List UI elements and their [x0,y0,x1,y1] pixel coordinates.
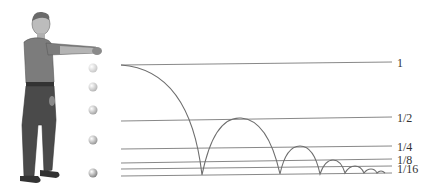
ball-4 [89,136,98,145]
label-half: 1/2 [397,112,412,124]
line-quarter [121,146,392,149]
diagram-canvas [0,0,435,193]
falling-balls [89,64,98,178]
ground-line [121,173,392,176]
line-1 [121,62,392,65]
ball-5 [89,169,98,178]
ball-1 [89,64,98,73]
ball-2 [89,83,98,92]
line-eighth [121,159,392,163]
label-quarter: 1/4 [397,141,412,153]
bouncing-ball-diagram: 1 1/2 1/4 1/8 1/16 [0,0,435,193]
label-1: 1 [397,57,403,69]
ball-3 [89,106,98,115]
person-figure [20,12,102,183]
label-sixteenth: 1/16 [397,163,418,175]
height-lines [121,62,392,176]
line-half [121,117,392,121]
